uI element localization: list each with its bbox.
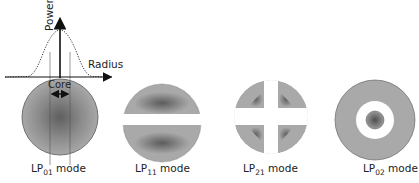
lp-modes-figure: Power Radius Core [0,0,419,183]
label-suffix: mode [53,162,86,174]
label-subscript: 21 [255,168,265,177]
label-prefix: LP [243,162,255,174]
label-suffix: mode [265,162,298,174]
lp21-mode-pattern [230,78,312,158]
lp21-mode-label: LP21 mode [243,162,298,177]
label-subscript: 02 [375,168,385,177]
lp01-mode-pattern [22,79,98,155]
figure-svg: Power Radius Core [0,0,419,183]
label-subscript: 11 [147,168,157,177]
label-prefix: LP [363,162,375,174]
lp11-mode-label: LP11 mode [135,162,190,177]
radius-axis-label: Radius [88,58,123,70]
core-label: Core [48,79,71,90]
label-suffix: mode [385,162,418,174]
label-suffix: mode [157,162,190,174]
label-prefix: LP [135,162,147,174]
label-subscript: 01 [43,168,53,177]
label-prefix: LP [31,162,43,174]
lp02-mode-label: LP02 mode [363,162,418,177]
lp02-mode-pattern [335,80,415,160]
power-axis-label: Power [43,0,55,31]
lp01-mode-label: LP01 mode [31,162,86,177]
